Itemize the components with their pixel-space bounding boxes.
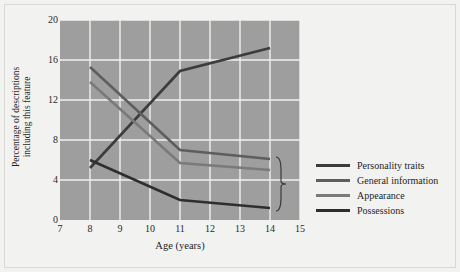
legend-item-general-information: General information [316,173,454,188]
legend-item-label: Appearance [357,191,405,201]
y-axis-title-line2: including this feature [22,77,32,158]
legend-item-label: General information [357,176,438,186]
legend-swatch-icon [316,179,350,182]
x-axis-title: Age (years) [60,240,300,251]
legend-item-label: Personality traits [357,161,425,171]
x-tick-15: 15 [288,224,312,234]
legend-swatch-icon [316,194,350,197]
chart-figure: 20 16 12 8 4 0 Percentage of description… [0,0,460,272]
x-tick-10: 10 [138,224,162,234]
plot-svg [60,20,300,220]
legend-swatch-icon [316,164,350,167]
legend-item-personality-traits: Personality traits [316,158,454,173]
x-tick-8: 8 [78,224,102,234]
legend-item-appearance: Appearance [316,188,454,203]
x-tick-12: 12 [198,224,222,234]
plot-area [60,20,300,220]
legend-swatch-icon [316,209,350,212]
legend-item-possessions: Possessions [316,203,454,218]
x-tick-13: 13 [228,224,252,234]
y-axis-title-line1: Percentage of descriptions [11,67,21,167]
y-tick-20: 20 [24,15,58,25]
y-axis-title: Percentage of descriptions including thi… [11,27,33,207]
x-tick-14: 14 [258,224,282,234]
x-tick-7: 7 [48,224,72,234]
x-tick-9: 9 [108,224,132,234]
x-axis-tick-labels: 7 8 9 10 11 12 13 14 15 [60,224,300,238]
x-tick-11: 11 [168,224,192,234]
legend-item-label: Possessions [357,206,404,216]
legend: Personality traits General information A… [316,158,454,218]
